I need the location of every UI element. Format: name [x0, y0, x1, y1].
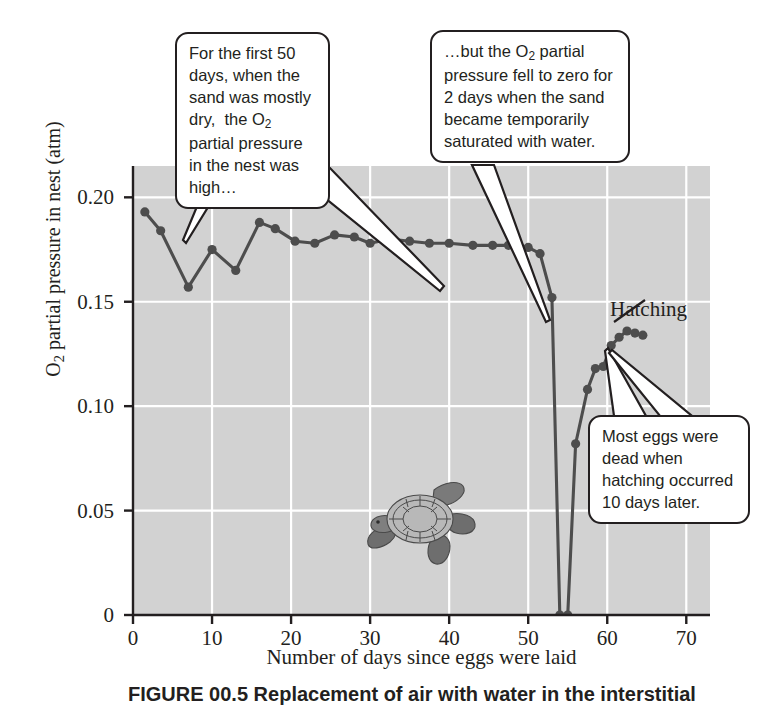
x-axis-title: Number of days since eggs were laid [133, 645, 710, 670]
y-tick-label: 0.05 [36, 501, 114, 522]
y-axis-title: O2 partial pressure in nest (atm) [42, 34, 68, 464]
y-tick-label: 0 [36, 605, 114, 626]
hatching-annotation-label: Hatching [610, 297, 687, 322]
figure-caption: FIGURE 00.5 Replacement of air with wate… [128, 683, 768, 705]
sea-turtle-illustration [356, 474, 482, 568]
callout-zero-pressure: …but the O2 partial pressure fell to zer… [430, 30, 630, 163]
figure-root: 00.050.100.150.20 010203040506070 O2 par… [0, 0, 784, 705]
callout-dry-period: For the first 50 days, when the sand was… [175, 32, 330, 209]
callout-eggs-dead: Most eggs were dead when hatching occurr… [588, 415, 750, 524]
